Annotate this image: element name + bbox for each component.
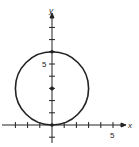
y-axis-label: y [48, 6, 54, 15]
x-axis-label: x [127, 121, 133, 130]
x-tick-label-5: 5 [110, 131, 115, 140]
top-point [50, 50, 54, 54]
y-tick-label-5: 5 [42, 60, 47, 69]
center-point [50, 86, 54, 90]
origin-point [50, 123, 54, 127]
x-axis-arrow-icon [121, 123, 126, 127]
circle-plot: y x 5 5 [0, 0, 139, 147]
